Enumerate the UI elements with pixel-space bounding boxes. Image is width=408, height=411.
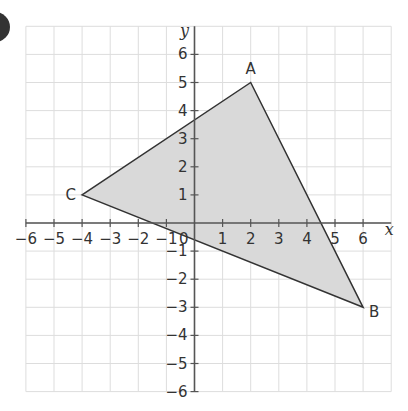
y-tick-label: 1	[178, 186, 188, 204]
question-number-marker	[0, 12, 10, 42]
y-tick-label: 4	[178, 102, 188, 120]
y-tick-label: −2	[165, 270, 187, 288]
y-tick-label: 5	[178, 74, 188, 92]
x-tick-label: 5	[330, 230, 340, 248]
y-tick-label: −3	[165, 298, 187, 316]
x-tick-label: −4	[71, 230, 93, 248]
vertex-label-b: B	[369, 303, 379, 321]
y-tick-label: −6	[165, 383, 187, 401]
x-tick-label: 6	[358, 230, 368, 248]
vertex-label-c: C	[66, 186, 76, 204]
y-tick-label: 6	[178, 45, 188, 63]
origin-label: 0	[179, 230, 189, 248]
x-tick-label: 3	[274, 230, 284, 248]
vertex-label-a: A	[246, 60, 257, 78]
y-axis-label: y	[179, 21, 190, 40]
x-tick-label: −5	[43, 230, 65, 248]
x-tick-label: 4	[302, 230, 312, 248]
x-tick-label: −3	[99, 230, 121, 248]
y-tick-label: −4	[165, 326, 187, 344]
y-tick-label: 3	[178, 130, 188, 148]
x-tick-label: 2	[246, 230, 256, 248]
x-tick-label: 1	[218, 230, 228, 248]
coordinate-plane: −6−5−4−3−2−1123456654321−1−2−3−4−5−60xy …	[0, 0, 408, 411]
x-tick-label: −2	[127, 230, 149, 248]
x-tick-label: −6	[15, 230, 37, 248]
y-tick-label: −5	[165, 355, 187, 373]
y-tick-label: 2	[178, 158, 188, 176]
x-axis-label: x	[385, 220, 394, 239]
